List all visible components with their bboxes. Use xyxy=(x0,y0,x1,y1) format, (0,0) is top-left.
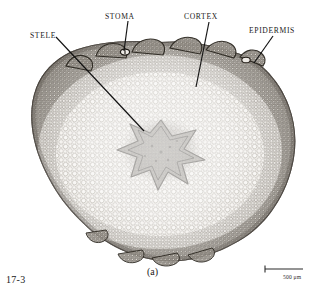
annotation-label-cortex: CORTEX xyxy=(184,13,218,21)
leader-line-stoma xyxy=(124,21,128,51)
annotation-overlay xyxy=(0,0,322,297)
scalebar-label: 500 μm xyxy=(283,274,301,280)
figure-number: 17-3 xyxy=(6,274,26,285)
figure-plate: STELE STOMA CORTEX EPIDERMIS 17-3 (a) 50… xyxy=(0,0,322,297)
annotation-label-epidermis: EPIDERMIS xyxy=(249,27,295,35)
annotation-label-stele: STELE xyxy=(30,32,56,40)
annotation-label-stoma: STOMA xyxy=(105,13,135,21)
panel-label: (a) xyxy=(147,266,158,277)
scalebar xyxy=(265,266,303,273)
leader-line-stele xyxy=(56,37,144,131)
leader-line-cortex xyxy=(196,22,209,87)
leader-line-epidermis xyxy=(254,36,273,63)
